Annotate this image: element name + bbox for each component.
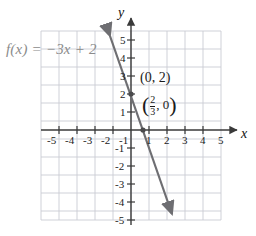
label-x-intercept: (23, 0) [142, 95, 177, 118]
fraction-numerator: 2 [150, 95, 155, 105]
ytick-3: 3 [120, 70, 126, 82]
ytick-5: 5 [120, 34, 126, 46]
ytick--4: -4 [115, 196, 124, 208]
xtick-1: 1 [146, 134, 152, 146]
xtick-2: 2 [164, 134, 170, 146]
fraction-denominator: 3 [150, 107, 155, 117]
axis-label-y: y [118, 5, 124, 21]
xtick--3: -3 [83, 134, 92, 146]
xtick--5: -5 [47, 134, 56, 146]
point-x-intercept [140, 127, 145, 132]
ytick--2: -2 [115, 160, 124, 172]
function-label: f(x) = −3x + 2 [6, 41, 97, 58]
fraction-comma: , [156, 97, 159, 112]
ytick--1: -1 [115, 142, 124, 154]
xtick-4: 4 [200, 134, 206, 146]
ytick-1: 1 [120, 106, 126, 118]
label-y-intercept: (0, 2) [140, 70, 170, 86]
fraction-close-paren: ) [169, 92, 176, 117]
xtick--2: -2 [101, 134, 110, 146]
xtick-3: 3 [182, 134, 188, 146]
ytick--5: -5 [115, 214, 124, 226]
xtick--4: -4 [65, 134, 74, 146]
axis-label-x: x [241, 126, 247, 142]
ytick-4: 4 [120, 52, 126, 64]
function-label-text: f(x) = −3x + 2 [6, 41, 97, 57]
point-y-intercept [128, 91, 133, 96]
xtick-5: 5 [218, 134, 224, 146]
coordinate-plane [0, 0, 256, 236]
ytick--3: -3 [115, 178, 124, 190]
fraction-open-paren: ( [142, 92, 149, 117]
fraction-two-thirds: 23 [150, 95, 155, 118]
ytick-2: 2 [120, 88, 126, 100]
graph-figure: f(x) = −3x + 2 (0, 2) (23, 0) y x -5 -4 … [0, 0, 256, 236]
